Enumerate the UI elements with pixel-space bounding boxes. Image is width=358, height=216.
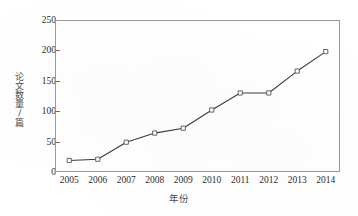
data-point-marker — [96, 157, 100, 161]
y-axis-tick-label: 100 — [26, 106, 56, 116]
data-point-marker — [210, 108, 214, 112]
y-axis-tick-label: 200 — [26, 45, 56, 55]
data-point-marker — [324, 50, 328, 54]
y-axis-tick-label: 150 — [26, 76, 56, 86]
data-point-marker — [181, 126, 185, 130]
data-point-marker — [267, 91, 271, 95]
data-line — [69, 52, 326, 161]
data-point-marker — [67, 158, 71, 162]
y-axis-tick-label: 50 — [26, 137, 56, 147]
data-point-marker — [124, 140, 128, 144]
data-point-marker — [238, 91, 242, 95]
data-point-marker — [295, 69, 299, 73]
y-axis-title: 论文数量/篇 — [11, 56, 27, 142]
x-axis-title: 年份 — [0, 191, 358, 205]
x-axis-tick-label: 2014 — [308, 175, 344, 185]
line-chart: 论文数量/篇 050100150200250 20052006200720082… — [0, 0, 358, 216]
data-series-plot — [55, 20, 340, 172]
y-axis-tick-label: 250 — [26, 15, 56, 25]
data-point-marker — [153, 131, 157, 135]
